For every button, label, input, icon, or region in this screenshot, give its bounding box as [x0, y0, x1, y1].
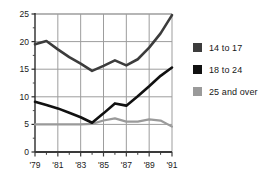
- y-axis-tick-label: 10: [20, 92, 30, 102]
- x-axis-tick-label: '79: [29, 160, 40, 170]
- legend-label-14-to-17: 14 to 17: [209, 43, 242, 53]
- line-chart: 0510152025 '79'81'83'85'87'89'91 14 to 1…: [0, 0, 279, 186]
- legend-swatch-18-to-24: [193, 65, 202, 74]
- y-axis-tick-label: 15: [20, 64, 30, 74]
- legend-swatch-25-and-over: [193, 87, 202, 96]
- x-axis-tick-label: '87: [121, 160, 132, 170]
- y-axis-tick-label: 5: [24, 119, 29, 129]
- x-axis-labels: '79'81'83'85'87'89'91: [29, 160, 177, 170]
- x-axis-tick-label: '85: [98, 160, 109, 170]
- y-axis-tick-label: 20: [20, 37, 30, 47]
- x-axis-tick-label: '89: [144, 160, 155, 170]
- x-axis-tick-label: '91: [166, 160, 177, 170]
- legend-item-18-to-24: 18 to 24: [193, 60, 277, 79]
- legend-item-14-to-17: 14 to 17: [193, 38, 277, 57]
- x-axis-tick-label: '81: [52, 160, 63, 170]
- legend-label-18-to-24: 18 to 24: [209, 65, 242, 75]
- x-axis-tick-label: '83: [75, 160, 86, 170]
- legend-label-25-and-over: 25 and over: [209, 87, 258, 97]
- y-axis-tick-label: 25: [20, 9, 30, 19]
- y-axis-tick-label: 0: [24, 147, 29, 157]
- legend-item-25-and-over: 25 and over: [193, 82, 277, 101]
- legend-swatch-14-to-17: [193, 43, 202, 52]
- y-axis-labels: 0510152025: [20, 9, 30, 157]
- chart-legend: 14 to 17 18 to 24 25 and over: [193, 38, 277, 104]
